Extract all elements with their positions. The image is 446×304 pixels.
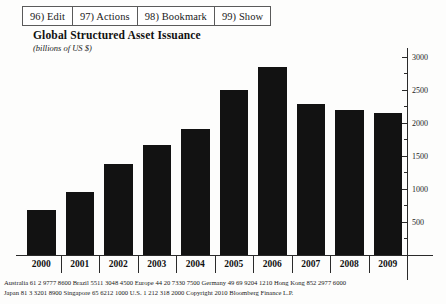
bar-2007[interactable] (297, 104, 326, 255)
y-tick-minor (404, 106, 408, 107)
bar-2009[interactable] (374, 113, 403, 255)
bar-slot (253, 50, 292, 255)
bar-2005[interactable] (220, 90, 249, 255)
bar-series (22, 50, 407, 255)
toolbar: 96) Edit 97) Actions 98) Bookmark 99) Sh… (22, 6, 271, 26)
y-axis-label: 500 (412, 217, 424, 226)
bar-2000[interactable] (27, 210, 56, 255)
x-axis-label-2004: 2004 (176, 259, 215, 269)
y-tick-major (402, 222, 408, 223)
y-tick-minor (404, 139, 408, 140)
y-tick-major (402, 189, 408, 190)
y-axis-label: 1500 (412, 151, 428, 160)
y-axis-label: 1000 (412, 184, 428, 193)
y-tick-major (402, 156, 408, 157)
bar-slot (330, 50, 369, 255)
y-tick-minor (404, 73, 408, 74)
bar-2003[interactable] (143, 145, 172, 255)
toolbar-button-show[interactable]: 99) Show (215, 7, 270, 25)
y-tick-minor (404, 172, 408, 173)
bar-slot (138, 50, 177, 255)
bar-slot (369, 50, 408, 255)
bar-2001[interactable] (66, 192, 95, 255)
y-axis-label: 2000 (412, 118, 428, 127)
x-axis-label-2007: 2007 (292, 259, 331, 269)
bar-slot (292, 50, 331, 255)
bar-2004[interactable] (181, 129, 210, 255)
x-axis-label-2008: 2008 (330, 259, 369, 269)
y-axis-label: 3000 (412, 52, 428, 61)
y-axis-label: 2500 (412, 85, 428, 94)
bar-2008[interactable] (335, 110, 364, 255)
y-tick-major (402, 90, 408, 91)
footer-line-2: Japan 81 3 3201 8900 Singapore 65 6212 1… (4, 288, 442, 298)
bar-slot (22, 50, 61, 255)
x-axis-line (16, 255, 433, 256)
footer-line-1: Australia 61 2 9777 8600 Brazil 5511 304… (4, 278, 442, 288)
x-axis-label-2001: 2001 (61, 259, 100, 269)
toolbar-button-bookmark[interactable]: 98) Bookmark (138, 7, 215, 25)
y-tick-minor (404, 205, 408, 206)
bar-slot (99, 50, 138, 255)
y-tick-minor (404, 238, 408, 239)
y-axis-line (407, 48, 408, 280)
toolbar-button-edit[interactable]: 96) Edit (23, 7, 73, 25)
bar-slot (61, 50, 100, 255)
toolbar-button-actions[interactable]: 97) Actions (73, 7, 138, 25)
x-axis-label-2002: 2002 (99, 259, 138, 269)
bar-chart-plot-area (22, 50, 407, 255)
bar-slot (176, 50, 215, 255)
bar-2002[interactable] (104, 164, 133, 255)
x-axis-label-2000: 2000 (22, 259, 61, 269)
y-tick-major (402, 123, 408, 124)
bar-2006[interactable] (258, 67, 287, 255)
bar-slot (215, 50, 254, 255)
footer-contact-info: Australia 61 2 9777 8600 Brazil 5511 304… (4, 278, 442, 298)
chart-title: Global Structured Asset Issuance (33, 29, 201, 41)
x-axis-label-2005: 2005 (215, 259, 254, 269)
x-axis-label-2006: 2006 (253, 259, 292, 269)
y-tick-major (402, 57, 408, 58)
x-axis-label-2003: 2003 (138, 259, 177, 269)
x-axis-label-2009: 2009 (369, 259, 408, 269)
